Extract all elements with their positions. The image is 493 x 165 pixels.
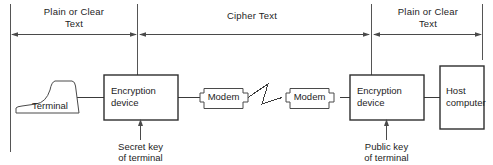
zone-label-left-line1: Plain or Clear (44, 6, 104, 17)
node-encryption-left: Encryption device (104, 75, 178, 120)
zone-arrowhead-middle-start (139, 32, 146, 37)
node-terminal-label: Terminal (32, 100, 68, 111)
public-key-label-line1: Public key (365, 141, 409, 152)
zone-arrowhead-right-end (475, 32, 482, 37)
node-encryption-right: Encryption device (350, 75, 424, 120)
zone-label-middle-line1: Cipher Text (227, 10, 277, 21)
encryption-left-label-line1: Encryption (111, 85, 156, 96)
zone-label-right-line2: Text (419, 18, 437, 29)
key-input-secret: Secret key of terminal (118, 119, 163, 163)
node-modem-right: Modem (286, 89, 334, 109)
host-computer-label-line2: computer (446, 97, 486, 108)
node-modem-left: Modem (200, 89, 248, 109)
zone-label-left-line2: Text (65, 18, 83, 29)
node-terminal: Terminal (16, 81, 79, 113)
zone-arrowhead-right-start (373, 32, 380, 37)
encryption-right-label-line1: Encryption (357, 85, 402, 96)
zone-arrowhead-middle-end (363, 32, 370, 37)
transmission-break-icon (248, 84, 282, 104)
host-computer-label-line1: Host (446, 85, 466, 96)
diagram-canvas: Plain or Clear Text Cipher Text Plain or… (0, 0, 493, 165)
encryption-left-label-line2: device (111, 97, 138, 108)
node-host-computer: Host computer (440, 66, 486, 129)
zone-arrowhead-left-start (11, 32, 18, 37)
secret-key-label-line1: Secret key (118, 141, 163, 152)
zone-arrowhead-left-end (130, 32, 137, 37)
modem-right-label: Modem (294, 91, 326, 102)
zone-label-right-line1: Plain or Clear (398, 6, 458, 17)
encryption-right-label-line2: device (357, 97, 384, 108)
key-input-public: Public key of terminal (364, 119, 408, 163)
secret-key-label-line2: of terminal (118, 152, 162, 163)
modem-left-label: Modem (208, 91, 240, 102)
public-key-label-line2: of terminal (364, 152, 408, 163)
